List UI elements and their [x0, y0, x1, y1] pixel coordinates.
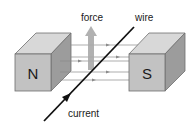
force-arrow-icon: [85, 26, 97, 70]
current-label: current: [68, 108, 99, 119]
field-arrow-head: [106, 44, 110, 47]
field-arrow-head: [78, 60, 82, 63]
field-arrow-head: [92, 79, 96, 82]
south-magnet: S: [129, 33, 185, 91]
field-arrow-head: [106, 71, 110, 74]
force-label: force: [81, 12, 104, 23]
magnetic-force-diagram: N S force wire current: [0, 0, 196, 126]
force-arrow: [85, 26, 97, 70]
north-magnet: N: [15, 33, 71, 91]
field-arrow-head: [116, 56, 120, 59]
wire-label: wire: [134, 12, 154, 23]
south-pole-label: S: [142, 65, 152, 82]
north-pole-label: N: [28, 65, 39, 82]
